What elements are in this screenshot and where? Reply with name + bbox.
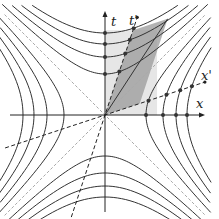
event-dot bbox=[161, 113, 165, 117]
x-prime-axis-label: x' bbox=[201, 68, 212, 83]
event-dot bbox=[123, 52, 127, 56]
event-dot bbox=[103, 72, 107, 76]
shaded-regions bbox=[105, 19, 168, 115]
t-axis-label: t bbox=[111, 14, 117, 29]
event-dot bbox=[128, 38, 132, 42]
event-dot bbox=[178, 88, 182, 92]
event-dot bbox=[164, 93, 168, 97]
event-dot bbox=[103, 42, 107, 46]
event-dot bbox=[144, 113, 148, 117]
event-dot bbox=[190, 84, 194, 88]
event-dot bbox=[185, 113, 189, 117]
event-dot bbox=[146, 99, 150, 103]
t-prime-axis-label: t' bbox=[129, 13, 138, 28]
event-dot bbox=[103, 31, 107, 35]
x-axis-label: x bbox=[196, 96, 204, 111]
t-axis-arrow bbox=[103, 11, 108, 17]
event-dot bbox=[117, 70, 121, 74]
event-dot bbox=[174, 113, 178, 117]
x-axis-arrow bbox=[199, 113, 205, 118]
spacetime-diagram: t t' x x' bbox=[0, 0, 219, 219]
event-dot bbox=[103, 55, 107, 59]
diagram-canvas: t t' x x' bbox=[0, 0, 219, 219]
t-prime-axis bbox=[71, 17, 137, 217]
